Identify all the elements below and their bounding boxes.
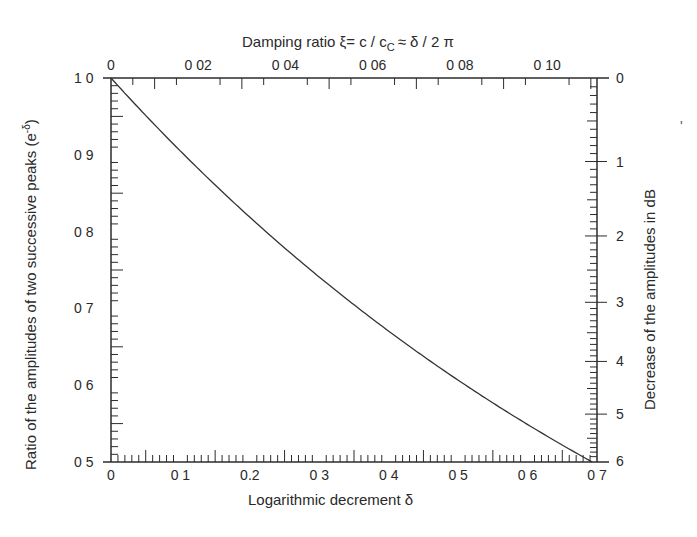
y-tick-label: 1 0	[74, 71, 93, 85]
y-tick-label: 0 5	[74, 455, 93, 469]
x2-tick-label: 0	[107, 58, 115, 72]
stray-mark: '	[680, 118, 683, 134]
left-axis-title-main: Ratio of the amplitudes of two successiv…	[22, 133, 39, 470]
x-tick-label: 0.2	[240, 468, 259, 482]
y2-tick-label: 6	[616, 454, 624, 468]
axis-ticks	[111, 78, 607, 462]
y2-tick-label: 4	[616, 354, 624, 368]
decay-curve	[111, 78, 592, 462]
plot-frame	[103, 78, 609, 462]
right-axis-title: Decrease of the amplitudes in dB	[642, 189, 657, 410]
left-axis-title: Ratio of the amplitudes of two successiv…	[22, 119, 38, 470]
x-tick-label: 0 7	[587, 468, 606, 482]
y2-tick-label: 3	[616, 295, 624, 309]
y-tick-label: 0 9	[74, 148, 93, 162]
x-tick-label: 0 3	[310, 468, 329, 482]
y2-tick-label: 2	[616, 229, 624, 243]
x2-tick-label: 0 08	[446, 58, 473, 72]
y2-tick-label: 0	[616, 71, 624, 85]
top-axis-title-tail: ≈ δ / 2 π	[398, 33, 454, 50]
y-tick-label: 0 7	[74, 301, 93, 315]
left-axis-title-sup: -δ	[21, 124, 32, 133]
x-tick-label: 0	[107, 468, 115, 482]
y-tick-label: 0 6	[74, 378, 93, 392]
y-tick-label: 0 8	[74, 225, 93, 239]
x-tick-label: 0 4	[379, 468, 398, 482]
x2-tick-label: 0 04	[272, 58, 299, 72]
x-tick-label: 0 6	[518, 468, 537, 482]
x2-tick-label: 0 10	[534, 58, 561, 72]
damping-chart	[0, 0, 697, 537]
x2-tick-label: 0 02	[185, 58, 212, 72]
y2-tick-label: 1	[616, 155, 624, 169]
top-axis-title: Damping ratio ξ= c / cC≈ δ / 2 π	[242, 34, 454, 53]
top-axis-title-sub: C	[387, 41, 395, 53]
bottom-axis-title: Logarithmic decrement δ	[248, 492, 413, 507]
x-tick-label: 0 1	[171, 468, 190, 482]
top-axis-title-main: Damping ratio ξ= c / c	[242, 33, 387, 50]
y2-tick-label: 5	[616, 407, 624, 421]
x2-tick-label: 0 06	[359, 58, 386, 72]
x-tick-label: 0 5	[448, 468, 467, 482]
